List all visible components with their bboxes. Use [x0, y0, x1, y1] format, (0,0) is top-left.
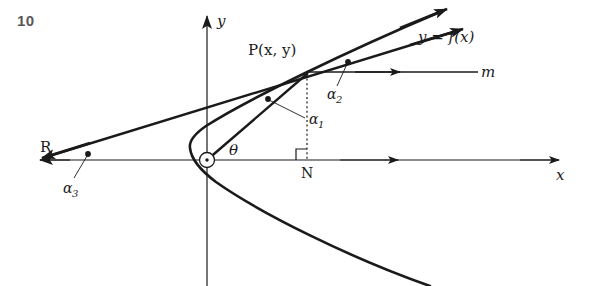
y-axis-label: y — [216, 12, 226, 30]
angle-alpha-3: α 3 — [63, 151, 91, 199]
theta-label: θ — [229, 141, 238, 159]
curve-label: y = f(x) — [417, 28, 474, 46]
figure-page: 10 x y y = f(x) — [0, 0, 594, 286]
alpha-1-leader — [269, 100, 305, 118]
alpha-3-leader — [74, 156, 87, 178]
alpha-1-dot — [265, 96, 271, 102]
parabola-path — [190, 12, 440, 286]
angle-theta: θ — [229, 141, 238, 159]
x-axis-label: x — [556, 166, 565, 184]
alpha-3-subscript: 3 — [72, 188, 78, 199]
right-angle-marker — [296, 149, 307, 160]
line-m-label: m — [481, 63, 495, 81]
origin-marker — [200, 153, 215, 168]
geometry-diagram: x y y = f(x) R m — [0, 0, 594, 286]
point-N-label: N — [301, 165, 313, 181]
alpha-2-subscript: 2 — [335, 94, 342, 105]
curve-arrow — [400, 9, 447, 28]
alpha-2-dot — [345, 59, 351, 65]
horizontal-line-m: m — [307, 63, 495, 81]
point-P-label: P(x, y) — [248, 41, 296, 59]
alpha-1-subscript: 1 — [318, 119, 324, 130]
alpha-3-dot — [85, 151, 91, 157]
y-axis: y — [207, 12, 226, 286]
point-R-label: R — [40, 138, 52, 156]
point-P: P(x, y) — [248, 41, 296, 59]
origin-dot — [205, 158, 208, 161]
dotted-segment-PN: N — [296, 74, 313, 181]
